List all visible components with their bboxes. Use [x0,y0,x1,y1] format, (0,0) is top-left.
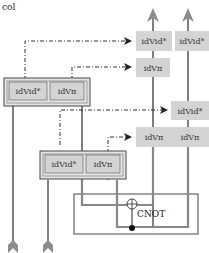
svg-text:idVπ: idVπ [58,87,77,96]
right-column-boxes: idVid* idVid* idVπ idVid* idVπ idVπ [136,31,209,147]
input-arrow-icon [43,240,53,253]
svg-text:idVπ: idVπ [181,133,200,142]
input-wire-1 [8,105,18,253]
svg-text:idVπ: idVπ [144,64,163,73]
left-box-group: idVid* idVπ [4,78,90,106]
svg-text:idVid*: idVid* [142,37,167,46]
svg-text:idVπ: idVπ [145,133,164,142]
svg-text:idVid*: idVid* [16,87,41,96]
cnot-label: CNOT [137,209,165,219]
svg-text:idVπ: idVπ [94,160,113,169]
svg-text:idVid*: idVid* [178,107,203,116]
svg-text:idVid*: idVid* [180,37,205,46]
input-wire-2 [43,180,53,253]
input-arrow-icon [8,240,18,253]
diagram-canvas: col idVid* idVπ idVid* [0,0,209,253]
caption: col [2,2,15,12]
middle-box-group: idVid* idVπ [40,151,126,179]
cnot-control-dot-icon [129,225,135,231]
svg-text:idVid*: idVid* [52,160,77,169]
